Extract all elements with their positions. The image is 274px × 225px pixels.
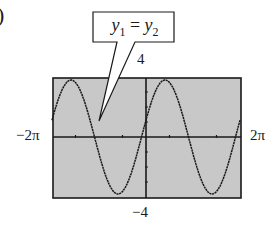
graph-frame: [53, 78, 241, 198]
xmin-label: −2π: [16, 128, 40, 143]
xmax-label: 2π: [250, 128, 265, 143]
ymin-label: −4: [132, 205, 148, 220]
ymax-label: 4: [137, 52, 145, 67]
callout-label: y1 = y2: [96, 15, 174, 40]
